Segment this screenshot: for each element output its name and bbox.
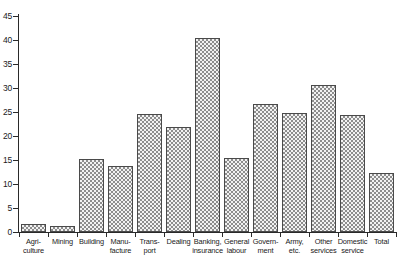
x-label-line1: Agri- (26, 237, 41, 246)
x-label-line2: port (133, 247, 166, 256)
bar-government (253, 104, 278, 232)
y-tick (13, 208, 19, 209)
y-axis-line (18, 14, 19, 233)
bar-chart: 051015202530354045 Agri-cultureMiningBui… (0, 0, 403, 260)
x-label-line1: Govern- (253, 237, 279, 246)
x-label-line1: Manu- (110, 237, 130, 246)
x-label-line1: Army, (286, 237, 304, 246)
y-tick-label: 20 (0, 132, 12, 141)
bar-army-etc (282, 113, 307, 232)
y-tick-label: 0 (0, 228, 12, 237)
y-tick (13, 112, 19, 113)
x-tick (135, 232, 136, 237)
y-tick (13, 64, 19, 65)
x-tick (77, 232, 78, 237)
y-tick-label: 40 (0, 36, 12, 45)
y-tick-label: 15 (0, 156, 12, 165)
bar-dealing (166, 127, 191, 232)
x-tick (48, 232, 49, 237)
y-tick (13, 136, 19, 137)
x-tick (280, 232, 281, 237)
x-axis-label: Total (365, 238, 398, 247)
y-tick-label: 45 (0, 12, 12, 21)
x-label-line1: General (224, 237, 249, 246)
x-label-line1: Mining (52, 237, 73, 246)
x-label-line2: culture (17, 247, 50, 256)
bar-domestic-service (340, 115, 365, 232)
x-tick (309, 232, 310, 237)
x-tick (164, 232, 165, 237)
x-tick (222, 232, 223, 237)
y-tick-label: 35 (0, 60, 12, 69)
y-tick (13, 184, 19, 185)
bar-total (369, 173, 394, 232)
bar-general-labour (224, 158, 249, 232)
x-tick (396, 232, 397, 237)
bar-agriculture (21, 224, 46, 232)
x-label-line1: Dealing (166, 237, 190, 246)
x-label-line1: Total (374, 237, 389, 246)
bar-other-services (311, 85, 336, 232)
x-label-line1: Domestic (338, 237, 368, 246)
x-label-line1: Banking, (194, 237, 222, 246)
x-label-line2: service (336, 247, 369, 256)
x-label-line1: Building (79, 237, 104, 246)
bar-building (79, 159, 104, 232)
y-tick-label: 30 (0, 84, 12, 93)
x-label-line1: Other (315, 237, 333, 246)
y-tick (13, 16, 19, 17)
y-tick (13, 160, 19, 161)
x-tick (19, 232, 20, 237)
y-tick-label: 10 (0, 180, 12, 189)
bar-mining (50, 226, 75, 232)
x-label-line1: Trans- (139, 237, 159, 246)
bar-transport (137, 114, 162, 232)
y-tick-label: 25 (0, 108, 12, 117)
y-tick-label: 5 (0, 204, 12, 213)
y-tick (13, 40, 19, 41)
y-tick (13, 88, 19, 89)
bar-manufacture (108, 166, 133, 232)
x-tick (106, 232, 107, 237)
x-axis-line (18, 232, 396, 233)
bar-banking-insurance (195, 38, 220, 232)
